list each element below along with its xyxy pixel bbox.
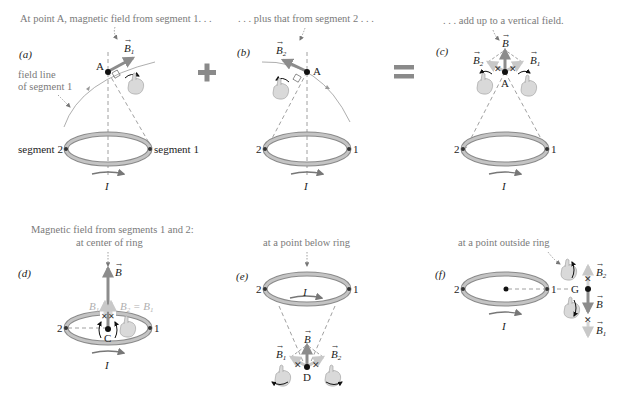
panel-d: Magnetic field from segments 1 and 2: at… [18, 224, 194, 371]
segment-2-label: 2 [256, 283, 262, 295]
panel-label-d: (d) [18, 267, 31, 280]
caption-a: At point A, magnetic field from segment … [20, 13, 212, 24]
point-d-label: D [303, 371, 311, 383]
cross-mark-icon: ✕ [584, 274, 592, 284]
ring-center-point [504, 287, 509, 292]
right-hand-icon [477, 73, 493, 94]
point-a [502, 69, 508, 75]
field-line-pointer [58, 95, 70, 107]
b2-vector [283, 60, 306, 71]
rotation-arrow-icon [125, 74, 139, 78]
caption-pointer-a [114, 27, 117, 39]
cross-mark-icon: ✕ [584, 315, 592, 325]
panel-label-c: (c) [436, 45, 449, 58]
svg-text:→: → [474, 49, 480, 57]
segment-1-label: 1 [551, 283, 557, 295]
segment-1-label: 1 [353, 283, 359, 295]
point-c-label: C [104, 332, 111, 344]
equals-operator [394, 65, 414, 79]
segment-2-label: 2 [454, 283, 460, 295]
segment-1-label: segment 1 [154, 143, 199, 155]
svg-text:→: → [597, 261, 603, 269]
svg-text:→: → [597, 293, 603, 301]
field-line-arrow-icon [86, 86, 90, 91]
cross-mark-icon: ✕ [108, 312, 115, 321]
panel-label-a: (a) [19, 48, 32, 61]
svg-text:→: → [531, 49, 537, 57]
panel-a: At point A, magnetic field from segment … [18, 13, 212, 192]
rotation-arrow-icon [480, 71, 492, 74]
cross-mark-icon: ✕ [509, 64, 517, 74]
current-label: I [303, 180, 309, 192]
b2-equals-b1-label: B2 = B1 [120, 300, 153, 314]
panel-e: at a point below ring (e) 2 1 I B → B1 →… [236, 237, 359, 386]
current-label: I [104, 180, 110, 192]
svg-text:→: → [503, 32, 509, 40]
caption-e: at a point below ring [263, 237, 351, 248]
panel-b: . . . plus that from segment 2 . . . (b)… [237, 13, 374, 192]
point-a [105, 69, 111, 75]
b1-vector [109, 58, 133, 71]
svg-text:→: → [597, 319, 603, 327]
segment-1-label: 1 [551, 143, 557, 155]
current-label: I [104, 359, 110, 371]
right-hand-icon [120, 316, 136, 337]
right-hand-icon [564, 297, 580, 318]
point-a-label: A [96, 60, 104, 72]
segment-2-label: segment 2 [18, 143, 63, 155]
rotation-arrow-icon [115, 322, 117, 338]
right-hand-icon [521, 75, 537, 96]
panel-f: at a point outside ring (f) 2 1 G ✕ ✕ B2… [435, 237, 607, 338]
field-line-label-2: of segment 1 [18, 81, 72, 92]
point-a-label: A [313, 65, 321, 77]
right-hand-icon [128, 73, 144, 94]
current-arrow-icon [489, 172, 521, 174]
segment-2-label: 2 [454, 143, 460, 155]
panel-label-f: (f) [435, 268, 446, 281]
segment-2-label: 2 [57, 322, 63, 334]
svg-text:→: → [277, 39, 283, 47]
panel-c: . . . add up to a vertical field. (c) ✕ … [436, 15, 564, 192]
right-hand-icon [275, 365, 291, 386]
current-label: I [501, 180, 507, 192]
svg-text:→: → [125, 37, 131, 45]
segment-1-label: 1 [154, 322, 160, 334]
point-g [585, 286, 591, 292]
right-angle-icon [293, 74, 301, 82]
field-line-label-1: field line [18, 69, 56, 80]
point-a [304, 69, 310, 75]
current-arrow-icon [92, 351, 124, 353]
cross-mark-icon: ✕ [494, 64, 502, 74]
current-label: I [501, 320, 507, 332]
current-arrow-icon [489, 312, 521, 314]
cross-mark-icon: ✕ [101, 312, 108, 321]
svg-text:→: → [277, 343, 283, 351]
b1-label: B1 [89, 300, 99, 314]
caption-d-1: Magnetic field from segments 1 and 2: [31, 224, 194, 235]
plus-operator [198, 64, 216, 82]
segment-2-label: 2 [256, 143, 262, 155]
rotation-arrow-icon [99, 322, 101, 338]
caption-c: . . . add up to a vertical field. [443, 15, 564, 26]
caption-b: . . . plus that from segment 2 . . . [238, 13, 374, 24]
point-d [304, 364, 310, 370]
magnetic-field-ring-diagram: At point A, magnetic field from segment … [0, 0, 622, 403]
panel-label-e: (e) [236, 270, 249, 283]
svg-text:→: → [116, 261, 122, 269]
segment-1-label: 1 [353, 143, 359, 155]
svg-text:→: → [332, 343, 338, 351]
svg-text:→: → [305, 328, 311, 336]
point-g-label: G [571, 283, 579, 295]
panel-label-b: (b) [237, 46, 250, 59]
caption-f: at a point outside ring [458, 237, 550, 248]
cross-mark-icon: ✕ [294, 360, 302, 370]
point-a-label: A [501, 77, 509, 89]
cross-mark-icon: ✕ [312, 360, 320, 370]
right-hand-icon [273, 78, 289, 99]
caption-d-2: at center of ring [76, 237, 144, 248]
rotation-arrow-icon [518, 71, 530, 74]
